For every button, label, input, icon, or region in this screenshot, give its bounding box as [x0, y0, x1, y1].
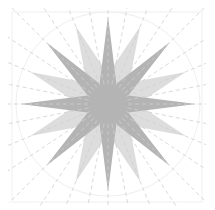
dark-star [20, 16, 196, 192]
compass-star-diagram [0, 0, 215, 210]
